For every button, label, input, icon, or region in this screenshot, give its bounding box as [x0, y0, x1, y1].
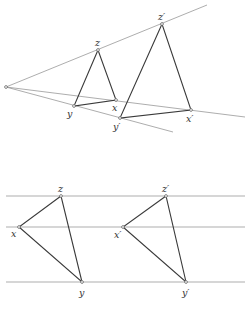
point-z	[97, 49, 100, 52]
label-x-prime-bottom: x′	[114, 229, 122, 240]
small-triangle	[74, 50, 116, 106]
label-x-bottom: x	[11, 228, 17, 239]
point-z-prime-bottom	[165, 195, 168, 198]
point-y-bottom	[81, 281, 84, 284]
label-x-prime: x′	[186, 113, 194, 124]
left-triangle-edges	[19, 196, 82, 282]
point-x-prime-bottom	[122, 226, 125, 229]
middle-ray	[6, 87, 245, 117]
small-triangle-edges	[74, 50, 116, 106]
point-z-bottom	[60, 195, 63, 198]
label-z: z	[94, 37, 101, 48]
right-triangle	[123, 196, 186, 282]
label-y-prime-bottom: y′	[181, 287, 190, 298]
top-figure: z y x z′ y′ x′	[5, 5, 245, 132]
label-z-prime-bottom: z′	[161, 183, 170, 194]
point-x-bottom	[18, 226, 21, 229]
origin-point	[5, 86, 8, 89]
label-z-bottom: z	[57, 183, 64, 194]
label-y-bottom: y	[78, 287, 85, 298]
large-triangle-edges	[120, 24, 191, 118]
point-y-prime-bottom	[185, 281, 188, 284]
label-y-prime: y′	[112, 121, 121, 132]
left-triangle	[19, 196, 82, 282]
diagram-canvas: z y x z′ y′ x′ z x y	[0, 0, 247, 309]
label-x: x	[112, 102, 118, 113]
bottom-figure: z x y z′ x′ y′	[6, 183, 245, 298]
right-triangle-edges	[123, 196, 186, 282]
diagram-svg: z y x z′ y′ x′ z x y	[0, 0, 247, 309]
label-y: y	[66, 108, 73, 119]
large-triangle	[120, 24, 191, 118]
point-y-prime	[119, 117, 122, 120]
point-x-prime	[190, 109, 193, 112]
label-z-prime: z′	[157, 11, 166, 22]
point-z-prime	[161, 23, 164, 26]
point-x	[115, 99, 118, 102]
lower-ray	[6, 87, 173, 132]
point-y	[73, 105, 76, 108]
